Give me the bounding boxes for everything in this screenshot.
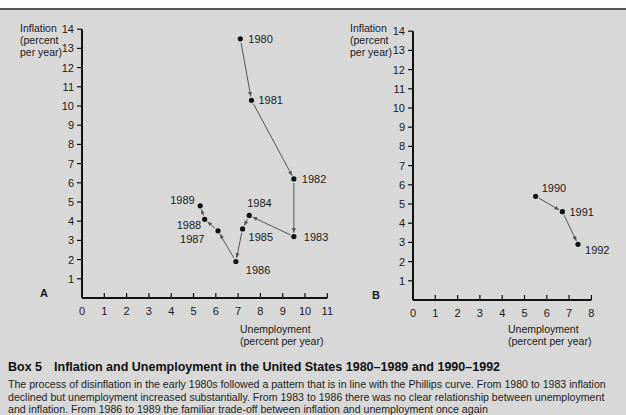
box-label: Box 5	[8, 360, 42, 374]
trend-arrow	[220, 234, 234, 258]
data-point-label: 1985	[249, 231, 273, 243]
x-tick-label: 6	[544, 307, 550, 319]
trend-arrow	[201, 210, 203, 216]
x-tick-label: 0	[79, 305, 85, 317]
y-tick-label: 2	[399, 256, 405, 268]
y-tick-label: 11	[394, 83, 405, 95]
data-point-label: 1990	[542, 182, 566, 194]
y-tick-label: 13	[393, 44, 405, 56]
y-tick-label: 5	[399, 198, 405, 210]
data-point	[291, 234, 296, 239]
y-tick-label: 3	[399, 236, 405, 248]
x-tick-label: 3	[146, 305, 152, 317]
y-tick-label: 7	[68, 158, 74, 170]
y-tick-label: 8	[68, 138, 74, 150]
x-tick-label: 5	[190, 305, 196, 317]
data-point	[240, 226, 245, 231]
data-point-label: 1986	[246, 264, 270, 276]
data-point	[291, 176, 296, 181]
data-point	[233, 259, 238, 264]
y-tick-label: 1	[68, 273, 74, 285]
trend-arrow	[208, 222, 215, 228]
y-axis-label: Inflation	[350, 22, 387, 34]
x-tick-label: 1	[432, 307, 438, 319]
data-point	[238, 36, 243, 41]
y-tick-label: 10	[62, 100, 74, 112]
x-tick-label: 2	[124, 305, 130, 317]
y-tick-label: 13	[62, 42, 74, 54]
caption-title-text: Inflation and Unemployment in the United…	[54, 360, 500, 374]
y-tick-label: 9	[399, 121, 405, 133]
data-point	[215, 228, 220, 233]
x-axis-label: Unemployment	[240, 323, 311, 335]
y-axis-label: (percent	[350, 34, 389, 46]
chart-panel-a: 012345678910111234567891011121314Inflati…	[20, 22, 333, 347]
data-point-label: 1981	[258, 94, 282, 106]
data-point	[533, 194, 538, 199]
x-tick-label: 4	[499, 307, 505, 319]
y-tick-label: 2	[68, 254, 74, 266]
x-axis-label: Unemployment	[508, 323, 579, 335]
y-axis-label: per year)	[20, 46, 62, 58]
x-tick-label: 6	[213, 305, 219, 317]
x-tick-label: 1	[101, 305, 107, 317]
x-tick-label: 3	[477, 307, 483, 319]
y-tick-label: 10	[393, 102, 405, 114]
y-tick-label: 1	[399, 275, 405, 287]
y-tick-label: 12	[62, 62, 74, 74]
data-point-label: 1980	[248, 33, 272, 45]
data-point	[249, 98, 254, 103]
x-tick-label: 7	[566, 307, 572, 319]
y-axis-label: (percent	[20, 34, 59, 46]
chart-panel-b: 0123456781234567891011121314Inflation(pe…	[350, 22, 610, 347]
data-point	[198, 203, 203, 208]
x-tick-label: 4	[168, 305, 174, 317]
y-tick-label: 7	[399, 160, 405, 172]
trend-arrow	[241, 43, 251, 97]
y-tick-label: 9	[68, 119, 74, 131]
figure-charts: 012345678910111234567891011121314Inflati…	[0, 0, 626, 360]
y-tick-label: 8	[399, 140, 405, 152]
y-tick-label: 6	[68, 177, 74, 189]
figure-caption-body: The process of disinflation in the early…	[8, 378, 620, 415]
trend-arrow	[244, 219, 247, 225]
y-tick-label: 6	[399, 179, 405, 191]
data-point	[560, 209, 565, 214]
trend-arrow	[564, 215, 576, 240]
figure-caption-title: Box 5Inflation and Unemployment in the U…	[8, 360, 500, 374]
x-tick-label: 5	[521, 307, 527, 319]
y-tick-label: 5	[68, 196, 74, 208]
x-tick-label: 9	[280, 305, 286, 317]
x-tick-label: 2	[455, 307, 461, 319]
x-tick-label: 8	[588, 307, 594, 319]
y-tick-label: 4	[68, 215, 74, 227]
data-point-label: 1988	[177, 219, 201, 231]
y-tick-label: 3	[68, 234, 74, 246]
y-tick-label: 4	[399, 217, 405, 229]
data-point-label: 1984	[247, 197, 271, 209]
y-tick-label: 14	[393, 25, 405, 37]
y-tick-label: 11	[63, 81, 74, 93]
x-tick-label: 7	[235, 305, 241, 317]
x-axis-label: (percent per year)	[240, 335, 323, 347]
y-axis-label: per year)	[350, 46, 392, 58]
trend-arrow	[237, 233, 242, 258]
x-tick-label: 0	[410, 307, 416, 319]
data-point-label: 1989	[170, 194, 194, 206]
panel-label: A	[40, 287, 48, 299]
data-point-label: 1983	[304, 231, 328, 243]
data-point-label: 1991	[569, 206, 593, 218]
x-tick-label: 11	[322, 305, 333, 317]
data-point	[202, 217, 207, 222]
data-point	[575, 242, 580, 247]
trend-arrow	[253, 104, 292, 176]
x-tick-label: 10	[299, 305, 311, 317]
data-point-label: 1982	[302, 173, 326, 185]
data-point	[247, 213, 252, 218]
panel-label: B	[372, 289, 380, 301]
data-point-label: 1987	[180, 233, 204, 245]
x-tick-label: 8	[257, 305, 263, 317]
trend-arrow	[539, 198, 559, 209]
data-point-label: 1992	[585, 244, 609, 256]
y-tick-label: 14	[62, 23, 74, 35]
